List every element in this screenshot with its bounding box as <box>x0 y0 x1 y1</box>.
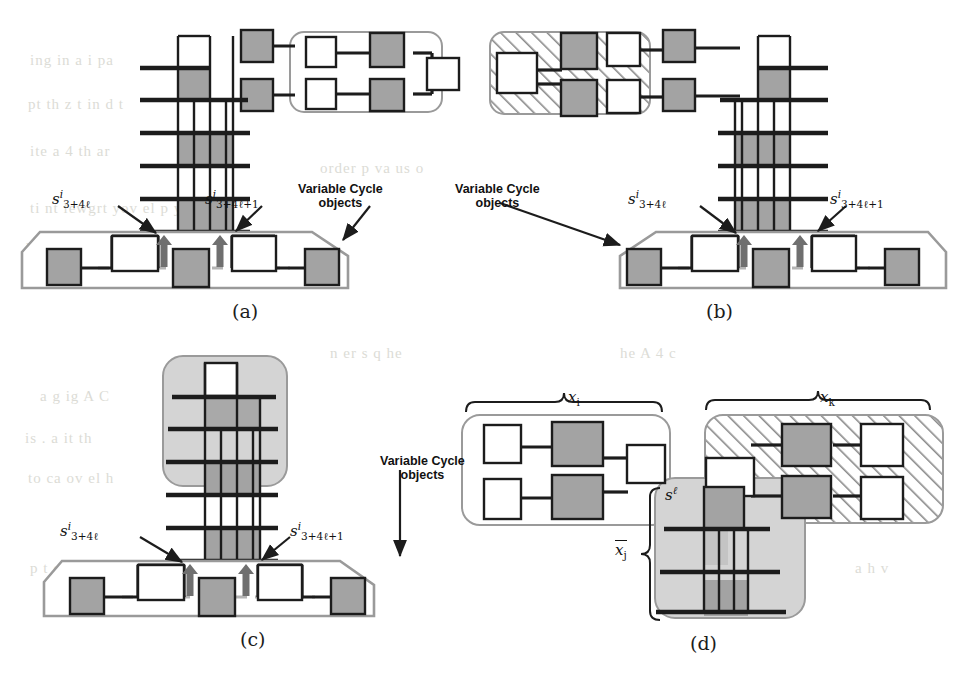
annotation-a-s-right: si3+4ℓ+1 <box>205 188 259 210</box>
node-gray <box>663 79 695 111</box>
brace-xk <box>706 391 930 410</box>
node-white <box>607 80 640 113</box>
node-gray <box>370 79 404 111</box>
annotation-a-variable-cycle-objects: Variable Cycleobjects <box>298 183 383 210</box>
cycle-node-white <box>232 236 276 271</box>
panel-label-a: (a) <box>232 300 258 322</box>
annotation-b-s-left: si3+4ℓ <box>628 188 666 210</box>
cycle-node-white <box>258 565 302 600</box>
annotation-c-variable-cycle-objects: Variable Cycleobjects <box>380 455 465 482</box>
cycle-node-gray <box>173 249 209 287</box>
node-gray-s-ell <box>704 487 744 529</box>
cycle-node-gray <box>753 249 789 287</box>
cycle-node-white <box>112 236 158 271</box>
panel-c <box>44 356 400 616</box>
cycle-node-white <box>692 236 738 271</box>
cycle-node-gray <box>47 249 81 285</box>
node-white <box>306 79 336 109</box>
panel-label-c: (c) <box>240 628 265 650</box>
node-white <box>861 477 903 519</box>
panel-label-d: (d) <box>690 632 717 654</box>
cycle-node-gray <box>331 578 365 614</box>
ladder-b-fills <box>735 67 790 232</box>
cycle-node-white <box>812 236 856 271</box>
cycle-node-gray <box>199 578 235 616</box>
node-gray <box>552 422 603 466</box>
cycle-node-gray <box>885 249 919 285</box>
ladder-c-fills <box>205 396 260 561</box>
annotation-b-s-right: si3+4ℓ+1 <box>830 188 884 210</box>
node-white <box>497 53 537 93</box>
node-white <box>607 33 640 66</box>
node-gray <box>552 475 603 519</box>
annotation-d-s-ell: sℓ <box>665 484 677 504</box>
annotation-b-variable-cycle-objects: Variable Cycleobjects <box>455 183 540 210</box>
cycle-node-white <box>138 565 184 600</box>
ladder-c-top-white <box>205 363 237 396</box>
annotation-c-s-left: si3+4ℓ <box>60 520 98 542</box>
cycle-node-gray <box>305 249 339 285</box>
node-gray <box>782 424 831 466</box>
annotation-d-x-i: xi <box>568 388 580 408</box>
cycle-node-gray <box>627 249 661 285</box>
node-white <box>484 425 521 463</box>
node-white <box>861 424 903 466</box>
node-gray <box>663 30 695 62</box>
annotation-d-x-j-bar: xj <box>615 540 627 561</box>
node-white <box>627 445 665 483</box>
annotation-d-x-k: xk <box>820 388 835 408</box>
node-gray <box>370 33 404 67</box>
node-white <box>484 479 521 519</box>
panel-d <box>462 391 943 620</box>
annotation-a-s-left: si3+4ℓ <box>52 188 90 210</box>
panel-label-b: (b) <box>706 300 733 322</box>
node-gray <box>782 476 831 518</box>
figure-canvas: ing in a i papt th z t in d tite a 4 th … <box>0 0 953 675</box>
node-gray <box>241 79 273 111</box>
cycle-node-gray <box>70 578 104 614</box>
annotation-c-s-right: si3+4ℓ+1 <box>290 520 344 542</box>
node-gray <box>561 80 597 116</box>
panel-a <box>22 30 459 288</box>
node-white <box>306 37 336 67</box>
panel-b <box>490 30 946 288</box>
node-gray <box>561 33 597 69</box>
node-gray <box>241 30 273 62</box>
node-white <box>427 58 459 90</box>
figure-drawing <box>0 0 953 675</box>
brace-xi <box>466 393 662 412</box>
